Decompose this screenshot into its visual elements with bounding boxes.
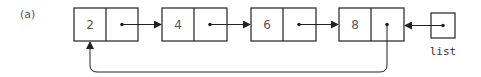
circular-link-arrow [90,25,387,73]
linked-list-diagram: (a) 2 4 6 8 list [0,0,481,77]
node-value: 8 [351,18,359,32]
list-node-4: 8 [339,8,404,41]
pointer-label: list [430,45,457,58]
list-pointer: list [430,13,457,58]
node-value: 4 [174,18,182,32]
node-value: 6 [263,18,271,32]
figure-label: (a) [20,8,35,21]
node-value: 2 [86,18,94,32]
